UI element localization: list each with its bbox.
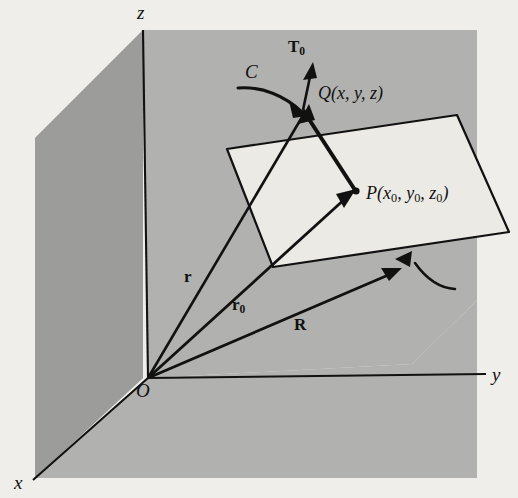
point-label-Q-sep1: , (345, 83, 354, 103)
point-label-P-y: y (406, 183, 414, 203)
point-label-Q-x: x (337, 83, 345, 103)
point-P-dot (352, 187, 359, 194)
point-label-Q-z: z (370, 83, 377, 103)
axis-label-y: y (492, 365, 500, 384)
curve-label-C: C (245, 62, 258, 81)
vector-label-T0-letter: T (288, 37, 299, 56)
axis-label-z: z (137, 3, 144, 22)
vector-label-r: r (184, 268, 192, 285)
point-label-P: P(x0, y0, z0) (366, 184, 448, 204)
vector-label-r0-letter: r (232, 295, 240, 314)
figure-container: z y x O T0 C Q(x, y, z) P(x0, y0, z0) r … (0, 0, 518, 498)
axis-label-x: x (14, 473, 22, 492)
vector-label-T0: T0 (288, 38, 305, 57)
point-label-Q: Q(x, y, z) (318, 84, 383, 102)
point-label-P-close: ) (442, 183, 448, 203)
point-label-P-sep1: , (397, 183, 406, 203)
point-label-P-sep2: , (420, 183, 429, 203)
diagram-canvas (0, 0, 518, 498)
point-label-P-letter: P (366, 183, 377, 203)
point-label-Q-letter: Q (318, 83, 331, 103)
vector-label-R: R (294, 316, 306, 333)
origin-label: O (136, 381, 150, 400)
point-label-P-x: x (383, 183, 391, 203)
point-label-Q-close: ) (377, 83, 383, 103)
point-label-Q-sep2: , (361, 83, 370, 103)
vector-label-T0-subscript: 0 (299, 45, 305, 58)
vector-label-r0: r0 (232, 296, 245, 315)
vector-label-r0-subscript: 0 (240, 303, 246, 316)
point-label-Q-y: y (354, 83, 361, 103)
